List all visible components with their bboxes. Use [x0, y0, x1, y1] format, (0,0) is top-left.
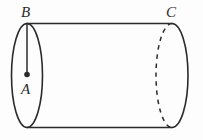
vertex-label-a: A — [21, 82, 30, 97]
vertex-label-c: C — [166, 5, 176, 20]
cylinder-drawing — [0, 0, 203, 140]
hidden-far-arc — [156, 24, 172, 128]
center-point-dot — [24, 72, 30, 78]
right-face-visible-arc — [172, 24, 188, 128]
vertex-label-b: B — [21, 5, 30, 20]
cylinder-figure: B C A — [0, 0, 203, 140]
